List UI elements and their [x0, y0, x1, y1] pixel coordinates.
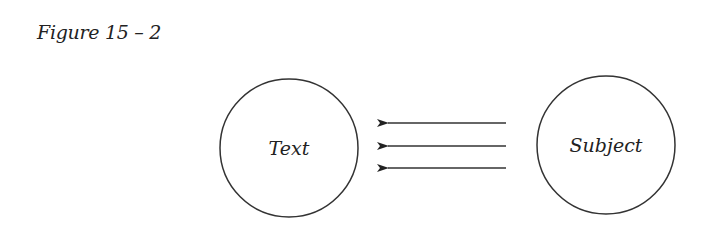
node-subject: Subject [537, 76, 675, 214]
diagram: Text Subject [0, 0, 707, 227]
node-text: Text [220, 79, 358, 217]
node-subject-label: Subject [570, 134, 643, 156]
arrows [388, 123, 506, 168]
node-text-label: Text [269, 137, 310, 159]
